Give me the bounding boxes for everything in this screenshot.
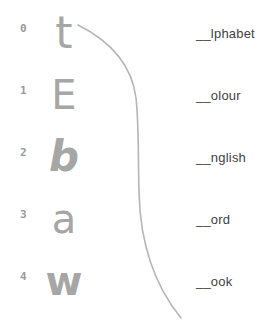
word-option[interactable]: __olour (196, 88, 241, 103)
row-number: 0 (20, 22, 27, 35)
row-number: 1 (20, 84, 27, 97)
match-row: 1 E __olour (0, 64, 267, 126)
letter-option[interactable]: E (51, 75, 76, 115)
word-option[interactable]: __nglish (196, 150, 246, 165)
match-row: 3 a __ord (0, 188, 267, 250)
row-number: 4 (20, 270, 27, 283)
letter-option[interactable]: w (46, 261, 83, 301)
match-row: 4 w __ook (0, 250, 267, 312)
row-number: 3 (20, 208, 27, 221)
match-row: 2 b __nglish (0, 126, 267, 188)
letter-option[interactable]: t (55, 11, 72, 55)
word-option[interactable]: __lphabet (196, 26, 255, 41)
match-row: 0 t __lphabet (0, 2, 267, 64)
row-number: 2 (20, 146, 27, 159)
letter-option[interactable]: b (49, 136, 79, 178)
word-option[interactable]: __ord (196, 212, 230, 227)
letter-option[interactable]: a (52, 199, 77, 239)
word-option[interactable]: __ook (196, 274, 232, 289)
matching-exercise: 0 t __lphabet 1 E __olour 2 b __nglish 3… (0, 0, 267, 322)
